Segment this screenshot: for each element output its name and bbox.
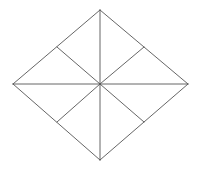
rhombus-diagram [0,0,197,171]
